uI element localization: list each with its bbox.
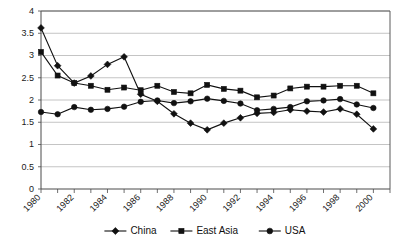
data-point — [187, 120, 194, 127]
data-point — [220, 120, 227, 127]
x-axis-tick-label: 1992 — [221, 192, 242, 213]
data-point — [38, 25, 45, 32]
legend-label: USA — [285, 225, 306, 236]
data-point — [371, 105, 377, 111]
y-axis-tick-label: 0.5 — [21, 162, 34, 172]
data-point — [204, 96, 210, 102]
y-axis-labels-group: 00.511.522.533.54 — [21, 6, 41, 194]
x-axis-tick-label: 1984 — [88, 192, 109, 213]
data-point — [354, 102, 360, 108]
data-point — [121, 104, 127, 110]
data-point — [87, 73, 94, 80]
legend-label: China — [130, 225, 157, 236]
data-point — [138, 99, 144, 105]
y-axis-tick-label: 3 — [29, 50, 34, 60]
legend-marker-square — [179, 228, 184, 233]
data-series-group — [38, 25, 377, 134]
data-point — [188, 99, 194, 105]
data-point — [155, 98, 161, 104]
y-axis-tick-label: 3.5 — [21, 28, 34, 38]
data-point — [271, 93, 276, 98]
data-point — [337, 96, 343, 102]
x-axis-tick-label: 1990 — [187, 192, 208, 213]
data-point — [204, 126, 211, 133]
data-point — [88, 83, 93, 88]
data-point — [354, 83, 359, 88]
data-point — [205, 82, 210, 87]
data-point — [72, 81, 77, 86]
legend-label: East Asia — [196, 225, 238, 236]
x-axis-labels-group: 1980198219841986198819901992199419961998… — [21, 192, 375, 213]
data-point — [39, 49, 44, 54]
data-point — [237, 114, 244, 121]
x-axis-tick-label: 1980 — [21, 192, 42, 213]
data-point — [288, 104, 294, 110]
y-axis-tick-label: 2.5 — [21, 73, 34, 83]
x-axis-tick-label: 1988 — [154, 192, 175, 213]
data-point — [221, 98, 227, 104]
data-point — [122, 85, 127, 90]
data-point — [321, 98, 327, 104]
data-point — [238, 88, 243, 93]
data-point — [238, 101, 244, 107]
chart-canvas: 00.511.522.533.54 1980198219841986198819… — [0, 0, 410, 244]
y-axis-tick-label: 1 — [29, 139, 34, 149]
data-point — [338, 83, 343, 88]
data-point — [255, 95, 260, 100]
data-point — [254, 107, 260, 113]
x-axis-tick-label: 1996 — [287, 192, 308, 213]
x-axis-tick-label: 1998 — [320, 192, 341, 213]
legend-item-usa: USA — [259, 225, 306, 236]
data-point — [88, 107, 94, 113]
data-point — [288, 86, 293, 91]
data-point — [271, 106, 277, 112]
x-axis-tick-label: 1982 — [54, 192, 75, 213]
data-point — [221, 86, 226, 91]
data-point — [304, 99, 310, 105]
data-point — [320, 109, 327, 116]
y-axis-tick-label: 2 — [29, 95, 34, 105]
gridlines-group — [41, 11, 390, 167]
series-china — [38, 25, 377, 134]
data-point — [171, 89, 176, 94]
y-axis-tick-label: 4 — [29, 6, 34, 16]
legend-marker-diamond — [112, 227, 119, 234]
data-point — [188, 91, 193, 96]
data-point — [304, 108, 311, 115]
legend-marker-circle — [267, 228, 273, 234]
data-point — [337, 106, 344, 113]
data-point — [138, 88, 143, 93]
legend-item-china: China — [104, 225, 157, 236]
data-point — [105, 106, 111, 112]
x-axis-ticks-group — [41, 189, 390, 193]
x-axis-tick-label: 1986 — [121, 192, 142, 213]
data-point — [121, 53, 128, 60]
legend-item-east-asia: East Asia — [170, 225, 238, 236]
data-point — [104, 61, 111, 68]
y-axis-tick-label: 1.5 — [21, 117, 34, 127]
chart-legend: ChinaEast AsiaUSA — [104, 225, 305, 236]
x-axis-tick-label: 2000 — [354, 192, 375, 213]
data-point — [171, 100, 177, 106]
data-point — [155, 83, 160, 88]
data-point — [371, 91, 376, 96]
data-point — [304, 84, 309, 89]
data-point — [38, 109, 44, 115]
data-point — [105, 87, 110, 92]
data-point — [321, 84, 326, 89]
y-axis-tick-label: 0 — [29, 184, 34, 194]
data-point — [71, 104, 77, 110]
data-point — [55, 73, 60, 78]
line-chart: 00.511.522.533.54 1980198219841986198819… — [0, 0, 410, 244]
data-point — [55, 111, 61, 117]
x-axis-tick-label: 1994 — [254, 192, 275, 213]
